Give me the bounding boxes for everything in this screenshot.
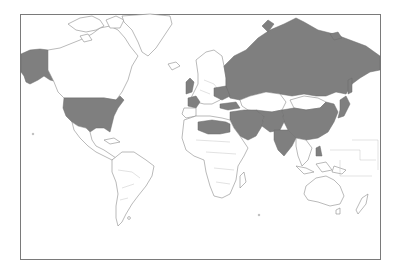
region-north-africa — [198, 120, 230, 134]
region-iceland — [168, 62, 180, 70]
region-canada — [48, 26, 138, 100]
world-map — [0, 0, 402, 274]
region-south-america — [112, 152, 154, 226]
region-russia — [224, 18, 380, 100]
region-united-kingdom — [186, 78, 194, 94]
small-island — [32, 133, 34, 135]
region-southeast-asia — [296, 138, 312, 166]
region-philippines — [316, 146, 322, 156]
region-madagascar — [240, 172, 246, 188]
region-australia — [304, 176, 344, 206]
region-japan — [338, 96, 350, 118]
region-sakhalin — [348, 78, 352, 94]
region-falklands — [128, 217, 131, 220]
region-cuba — [104, 138, 120, 144]
region-turkey — [220, 102, 240, 110]
region-united-states — [63, 96, 124, 132]
small-island — [258, 214, 260, 216]
region-tasmania — [336, 208, 340, 214]
region-new-zealand — [356, 194, 368, 214]
